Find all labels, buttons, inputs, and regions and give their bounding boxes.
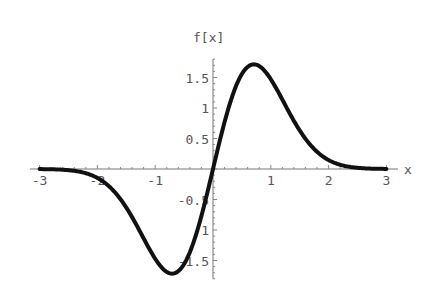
- x-tick-label: -1: [147, 173, 163, 188]
- function-plot: -3-2-1123-1.5-1-0.50.511.5 x f[x]: [0, 0, 441, 296]
- y-tick-label: 0.5: [186, 132, 209, 147]
- y-tick-label: 1.5: [186, 71, 209, 86]
- x-tick-label: 3: [382, 173, 390, 188]
- y-tick-label: 1: [201, 101, 209, 116]
- y-axis-label: f[x]: [193, 30, 224, 45]
- x-tick-label: -3: [32, 173, 48, 188]
- x-axis-label: x: [404, 162, 412, 177]
- x-tick-label: 1: [267, 173, 275, 188]
- x-tick-label: 2: [325, 173, 333, 188]
